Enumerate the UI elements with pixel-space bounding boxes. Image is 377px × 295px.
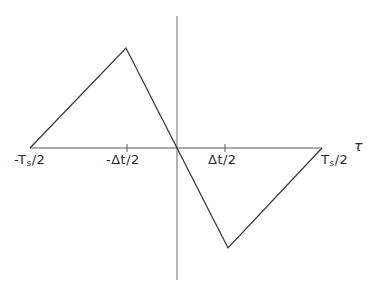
- tick-label-plus-dt-half: Δt/2: [208, 152, 237, 167]
- waveform-diagram: [0, 0, 377, 295]
- tick-label-minus-ts-half: -Ts/2: [14, 152, 45, 168]
- tick-label-plus-ts-half: Ts/2: [321, 152, 348, 168]
- tau-axis-label: τ: [354, 138, 363, 154]
- tick-label-minus-dt-half: -Δt/2: [106, 152, 140, 167]
